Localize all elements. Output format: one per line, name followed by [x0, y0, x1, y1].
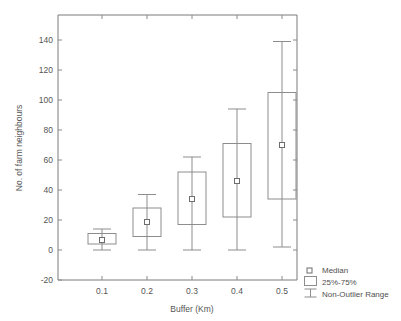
boxplot-group-0.2[interactable]: [133, 195, 161, 251]
y-tick-label: 100: [39, 95, 53, 105]
x-axis-title: Buffer (Km): [170, 304, 213, 314]
legend-item-median[interactable]: Median: [307, 266, 348, 275]
boxplot-group-0.3[interactable]: [178, 157, 206, 250]
x-tick-label: 0.5: [276, 286, 288, 296]
median-marker: [145, 220, 150, 225]
y-axis-ticks: [58, 40, 62, 280]
median-marker: [280, 143, 285, 148]
legend-label-iqr: 25%-75%: [322, 278, 357, 287]
legend-label-range: Non-Outlier Range: [322, 290, 389, 299]
x-tick-label: 0.2: [141, 286, 153, 296]
plot-frame: [58, 15, 297, 280]
boxplot-group-0.4[interactable]: [223, 109, 251, 250]
x-tick-label: 0.1: [96, 286, 108, 296]
x-tick-label: 0.3: [186, 286, 198, 296]
y-tick-label: 40: [44, 185, 54, 195]
median-marker: [100, 238, 105, 243]
legend-label-median: Median: [322, 266, 348, 275]
legend-item-range[interactable]: Non-Outlier Range: [305, 289, 390, 299]
y-tick-label: 80: [44, 125, 54, 135]
chart-canvas: -20 0 20 40 60 80 100 120 140: [0, 0, 401, 321]
y-tick-label: 60: [44, 155, 54, 165]
y-tick-label: 120: [39, 65, 53, 75]
y-tick-label: 140: [39, 35, 53, 45]
median-marker: [235, 179, 240, 184]
legend: Median 25%-75% Non-Outlier Range: [305, 266, 390, 299]
median-icon: [307, 268, 312, 273]
y-axis-title: No. of farm neighbours: [14, 105, 24, 191]
x-axis-tick-labels: 0.1 0.2 0.3 0.4 0.5: [96, 286, 288, 296]
boxplot-group-0.1[interactable]: [88, 229, 116, 250]
y-axis-tick-labels: -20 0 20 40 60 80 100 120 140: [39, 35, 53, 285]
y-tick-label: -20: [41, 275, 54, 285]
y-tick-label: 0: [48, 245, 53, 255]
y-tick-label: 20: [44, 215, 54, 225]
boxplot-figure: -20 0 20 40 60 80 100 120 140: [0, 0, 401, 321]
boxplot-group-0.5[interactable]: [268, 42, 296, 248]
x-tick-label: 0.4: [231, 286, 243, 296]
median-marker: [190, 197, 195, 202]
legend-item-iqr[interactable]: 25%-75%: [305, 277, 357, 288]
box-outline-icon: [305, 277, 317, 286]
